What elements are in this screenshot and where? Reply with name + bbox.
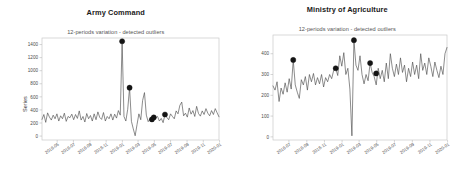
svg-text:2019-01: 2019-01 <box>328 141 345 155</box>
svg-text:200: 200 <box>30 121 38 126</box>
svg-text:300: 300 <box>261 72 269 77</box>
svg-text:2019-11: 2019-11 <box>190 141 206 154</box>
svg-text:2018-07: 2018-07 <box>60 141 77 155</box>
svg-text:2018-07: 2018-07 <box>275 141 292 155</box>
svg-text:400: 400 <box>261 51 269 56</box>
line-chart-ministry-of-agriculture: 01002003004002018-072018-092018-112019-0… <box>232 0 463 177</box>
svg-text:2019-09: 2019-09 <box>399 141 416 155</box>
svg-text:1400: 1400 <box>28 42 39 47</box>
svg-text:2020-01: 2020-01 <box>434 141 451 155</box>
svg-text:2019-05: 2019-05 <box>363 141 380 155</box>
chart-panel-army-command: Army Command 12-periods variation - dete… <box>0 0 232 177</box>
svg-text:800: 800 <box>30 81 38 86</box>
svg-text:2020-01: 2020-01 <box>206 141 223 155</box>
svg-text:2018-09: 2018-09 <box>77 141 94 155</box>
svg-text:100: 100 <box>261 114 269 119</box>
svg-text:400: 400 <box>30 108 38 113</box>
svg-text:2019-03: 2019-03 <box>125 141 142 155</box>
svg-text:2018-11: 2018-11 <box>311 141 327 154</box>
figure-canvas: Army Command 12-periods variation - dete… <box>0 0 463 177</box>
svg-text:2019-05: 2019-05 <box>141 141 158 155</box>
svg-text:2019-03: 2019-03 <box>345 141 362 155</box>
svg-text:0: 0 <box>266 135 269 140</box>
svg-text:1200: 1200 <box>28 55 39 60</box>
svg-text:600: 600 <box>30 95 38 100</box>
svg-text:2019-09: 2019-09 <box>174 141 191 155</box>
svg-text:2018-11: 2018-11 <box>93 141 109 154</box>
svg-text:2018-05: 2018-05 <box>44 141 61 155</box>
svg-text:2018-09: 2018-09 <box>293 141 310 155</box>
svg-text:2019-01: 2019-01 <box>109 141 126 155</box>
svg-text:2019-11: 2019-11 <box>416 141 432 154</box>
chart-panel-ministry-of-agriculture: Ministry of Agriculture 12-periods varia… <box>232 0 463 177</box>
svg-text:2019-07: 2019-07 <box>157 141 174 155</box>
svg-text:200: 200 <box>261 93 269 98</box>
svg-text:2019-07: 2019-07 <box>381 141 398 155</box>
svg-text:1000: 1000 <box>28 68 39 73</box>
line-chart-army-command: 02004006008001000120014002018-052018-072… <box>0 0 231 177</box>
svg-text:0: 0 <box>35 134 38 139</box>
